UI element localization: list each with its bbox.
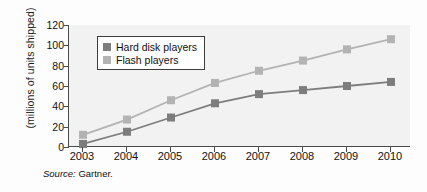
y-tick-label: 40 xyxy=(30,100,64,112)
data-point-marker xyxy=(343,45,351,53)
data-point-marker xyxy=(167,96,175,104)
y-axis-tick-labels: 120100806040200 xyxy=(26,25,64,147)
y-tick-label: 80 xyxy=(30,60,64,72)
y-tick-mark xyxy=(64,66,69,67)
data-point-marker xyxy=(123,116,131,124)
legend-item: Hard disk players xyxy=(103,40,197,53)
legend-swatch-icon xyxy=(103,43,111,51)
data-point-marker xyxy=(79,131,87,139)
data-point-marker xyxy=(123,128,131,136)
data-point-marker xyxy=(211,99,219,107)
y-tick-label: 100 xyxy=(30,39,64,51)
y-tick-label: 120 xyxy=(30,19,64,31)
data-point-marker xyxy=(255,67,263,75)
data-point-marker xyxy=(299,86,307,94)
legend-swatch-icon xyxy=(103,56,111,64)
y-tick-mark xyxy=(64,86,69,87)
y-tick-label: 60 xyxy=(30,80,64,92)
y-tick-mark xyxy=(64,25,69,26)
source-text: Gartner. xyxy=(78,168,112,179)
data-point-marker xyxy=(343,82,351,90)
y-tick-mark xyxy=(64,45,69,46)
data-point-marker xyxy=(211,79,219,87)
legend-item: Flash players xyxy=(103,53,197,66)
y-tick-mark xyxy=(64,106,69,107)
data-point-marker xyxy=(255,90,263,98)
x-tick-label: 2010 xyxy=(364,150,416,162)
chart-legend: Hard disk playersFlash players xyxy=(97,36,205,70)
x-axis-tick-labels: 20032004200520062007200820092010 xyxy=(68,150,410,166)
source-note: Source: Gartner. xyxy=(43,168,113,179)
data-point-marker xyxy=(167,114,175,122)
y-tick-label: 20 xyxy=(30,121,64,133)
data-point-marker xyxy=(387,35,395,43)
series-hard-disk-players xyxy=(79,78,395,148)
data-point-marker xyxy=(299,57,307,65)
legend-label: Flash players xyxy=(116,54,178,66)
y-tick-mark xyxy=(64,127,69,128)
chart-figure: (millions of units shipped) 120100806040… xyxy=(0,0,427,192)
source-prefix: Source: xyxy=(43,168,76,179)
legend-label: Hard disk players xyxy=(116,41,197,53)
data-point-marker xyxy=(387,78,395,86)
